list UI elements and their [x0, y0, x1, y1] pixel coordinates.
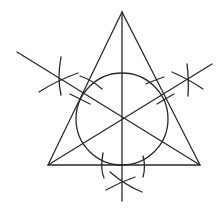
triangle	[48, 12, 200, 165]
left-star-mark	[39, 57, 78, 95]
right-star-mark	[172, 64, 203, 96]
left-bisector	[17, 52, 200, 165]
incircle-construction-diagram	[0, 0, 217, 210]
diagram-svg	[0, 0, 217, 210]
bottom-star-mark	[102, 153, 145, 192]
